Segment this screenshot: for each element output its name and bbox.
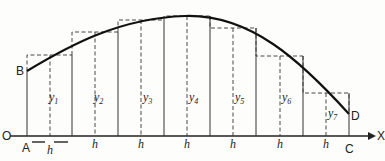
ordinate-y7: y7 — [327, 106, 338, 122]
ordinate-labels: y1 y2 y3 y4 y5 y6 y7 — [48, 90, 338, 122]
ordinate-y4: y4 — [188, 90, 198, 106]
strip-label-4: h — [184, 137, 190, 151]
ordinate-y3: y3 — [142, 90, 152, 106]
strip-label-3: h — [138, 137, 144, 151]
x-axis-label: X — [377, 129, 385, 143]
ordinate-y6: y6 — [281, 90, 291, 106]
point-d-label: D — [351, 109, 360, 123]
strip-label-2: h — [92, 137, 98, 151]
origin-label: O — [2, 129, 11, 143]
strip-label-5: h — [230, 137, 236, 151]
strip-label-6: h — [277, 137, 283, 151]
ordinate-y1: y1 — [48, 90, 58, 106]
x-axis-arrow-icon — [368, 132, 376, 140]
diagram: O X B D A C h h h h h h h y1 y2 y3 y4 y5… — [0, 0, 385, 161]
ordinate-y5: y5 — [234, 90, 244, 106]
point-a-label: A — [22, 141, 30, 155]
midpoint-rectangles — [27, 16, 349, 136]
curve — [27, 16, 349, 114]
ordinate-y2: y2 — [93, 90, 103, 106]
strip-width-label: h — [47, 143, 53, 157]
strip-boundaries — [27, 16, 349, 136]
strip-label-7: h — [323, 137, 329, 151]
point-c-label: C — [345, 142, 354, 156]
diagram-canvas: O X B D A C h h h h h h h y1 y2 y3 y4 y5… — [0, 0, 385, 161]
point-b-label: B — [16, 64, 24, 78]
